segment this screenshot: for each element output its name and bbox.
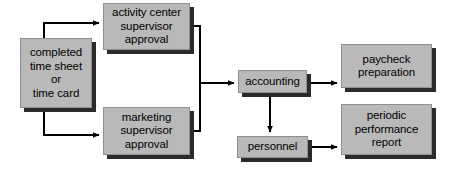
- node-periodic-performance-report: periodicperformancereport: [341, 104, 432, 155]
- node-personnel: personnel: [237, 136, 308, 158]
- edge-marketing-to-bus: [190, 83, 200, 131]
- node-label: completedtime sheetortime card: [27, 46, 85, 100]
- node-label: marketingsupervisorapproval: [117, 111, 175, 152]
- node-completed-time-sheet: completedtime sheetortime card: [20, 38, 92, 108]
- node-label: accounting: [242, 75, 303, 89]
- node-label: periodicperformancereport: [352, 109, 421, 150]
- node-label: activity centersupervisorapproval: [109, 6, 184, 47]
- edge-activity-center-to-bus: [190, 26, 200, 83]
- edge-timesheet-to-activity-center: [44, 23, 99, 38]
- node-label: paycheckpreparation: [355, 53, 418, 80]
- flowchart-diagram: completedtime sheetortime card activity …: [0, 0, 458, 169]
- node-activity-center-supervisor-approval: activity centersupervisorapproval: [103, 3, 190, 50]
- node-label: personnel: [245, 140, 301, 154]
- edge-timesheet-to-marketing: [44, 108, 99, 135]
- node-marketing-supervisor-approval: marketingsupervisorapproval: [103, 107, 190, 155]
- node-accounting: accounting: [238, 70, 307, 93]
- node-paycheck-preparation: paycheckpreparation: [341, 44, 432, 88]
